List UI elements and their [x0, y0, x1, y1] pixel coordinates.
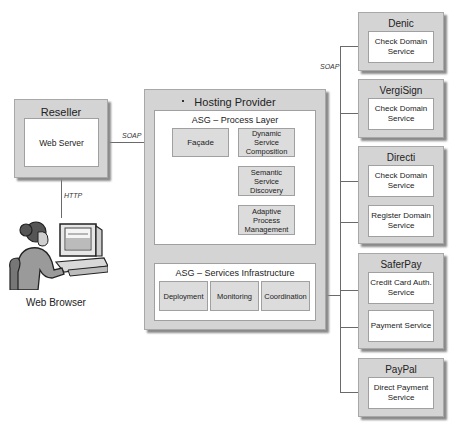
user-at-computer-icon [8, 218, 108, 290]
directi-check-domain-service: Check Domain Service [368, 165, 434, 197]
web-browser-illustration [8, 218, 108, 290]
provider-vergisign: VergiSign Check Domain Service [358, 79, 444, 138]
provider-name: Denic [359, 18, 443, 29]
monitoring-node: Monitoring [210, 281, 259, 311]
vergisign-check-domain-service: Check Domain Service [368, 98, 434, 130]
coordination-node: Coordination [261, 281, 310, 311]
adaptive-process-management-node: Adaptive Process Management [238, 205, 295, 235]
soap-label-reseller: SOAP [122, 132, 141, 139]
web-browser-label: Web Browser [26, 297, 86, 308]
provider-name: PayPal [359, 364, 443, 375]
reseller-title: Reseller [15, 106, 107, 118]
dynamic-service-composition-node: Dynamic Service Composition [238, 128, 295, 157]
deployment-node: Deployment [159, 281, 208, 311]
web-server-node: Web Server [24, 118, 99, 167]
bullet-dot [182, 100, 184, 102]
saferpay-credit-card-auth-service: Credit Card Auth. Service [368, 272, 434, 304]
provider-name: Directi [359, 152, 443, 163]
provider-name: VergiSign [359, 85, 443, 96]
hosting-provider-title: Hosting Provider [145, 96, 325, 108]
paypal-direct-payment-service: Direct Payment Service [368, 377, 434, 409]
provider-directi: Directi Check Domain Service Register Do… [358, 146, 444, 244]
provider-bus [340, 46, 341, 392]
saferpay-payment-service: Payment Service [368, 310, 434, 342]
http-label: HTTP [64, 192, 82, 199]
directi-register-domain-service: Register Domain Service [368, 205, 434, 237]
facade-node: Façade [172, 128, 229, 157]
soap-label-providers: SOAP [320, 63, 339, 70]
services-infrastructure-title: ASG – Services Infrastructure [155, 268, 315, 278]
denic-check-domain-service: Check Domain Service [368, 31, 434, 63]
provider-denic: Denic Check Domain Service [358, 12, 444, 71]
reseller-box: Reseller Web Server [14, 99, 108, 178]
process-layer-title: ASG – Process Layer [155, 115, 315, 125]
provider-saferpay: SaferPay Credit Card Auth. Service Payme… [358, 253, 444, 349]
provider-name: SaferPay [359, 259, 443, 270]
provider-paypal: PayPal Direct Payment Service [358, 358, 444, 417]
semantic-service-discovery-node: Semantic Service Discovery [238, 166, 295, 196]
